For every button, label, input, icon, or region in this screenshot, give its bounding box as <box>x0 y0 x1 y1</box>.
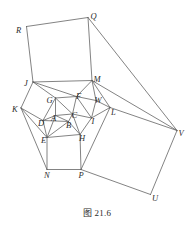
vertex-label-E: E <box>41 136 46 145</box>
vertex-label-B: B <box>66 121 71 130</box>
geometry-figure: ABCDEFGHIJKLMNPQRUVW 图 21.6 <box>0 0 194 231</box>
edge-QM <box>88 18 92 81</box>
vertex-label-F: F <box>76 92 81 101</box>
vertex-label-R: R <box>16 26 21 35</box>
vertex-label-P: P <box>79 171 84 180</box>
vertex-label-W: W <box>95 96 102 105</box>
vertex-label-L: L <box>111 108 116 117</box>
vertex-label-I: I <box>92 117 95 126</box>
edge-GF <box>56 97 77 99</box>
vertex-label-K: K <box>12 105 18 114</box>
vertex-label-N: N <box>44 171 50 180</box>
edge-EH <box>47 135 80 138</box>
edge-MV <box>92 81 177 131</box>
vertex-label-A: A <box>51 114 56 123</box>
vertex-label-H: H <box>79 134 85 143</box>
vertex-label-J: J <box>24 79 28 88</box>
edge-QV <box>88 18 177 131</box>
vertex-label-U: U <box>152 194 158 203</box>
edge-AC <box>56 114 73 116</box>
figure-caption: 图 21.6 <box>0 206 194 219</box>
vertex-label-G: G <box>47 96 53 105</box>
edge-JM <box>33 81 92 83</box>
edge-RJ <box>27 27 34 83</box>
edge-GC <box>56 98 73 114</box>
edge-JF <box>33 82 77 97</box>
edge-PU <box>81 170 151 195</box>
vertex-label-Q: Q <box>91 12 97 21</box>
edge-RQ <box>27 18 89 27</box>
figure-canvas <box>0 0 194 231</box>
vertex-label-M: M <box>94 75 101 84</box>
edge-group <box>21 18 177 195</box>
vertex-label-V: V <box>179 129 184 138</box>
edge-VU <box>151 131 178 195</box>
vertex-label-D: D <box>38 119 44 128</box>
vertex-label-C: C <box>72 111 78 120</box>
